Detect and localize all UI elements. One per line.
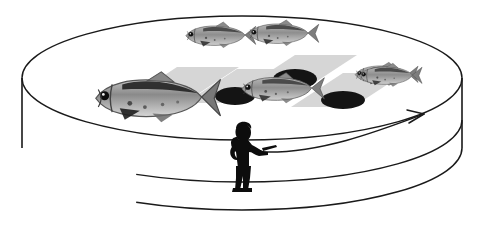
dark-ellipse bbox=[321, 91, 365, 109]
tank-scene-svg bbox=[0, 0, 482, 243]
figure-canvas bbox=[0, 0, 482, 243]
tank-outline bbox=[22, 16, 462, 210]
